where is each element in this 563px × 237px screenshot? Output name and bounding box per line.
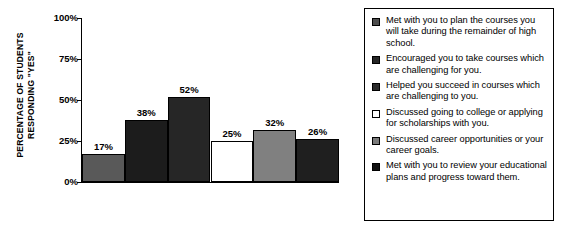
y-tick-label-100: 100% <box>34 13 78 23</box>
bar <box>296 139 339 182</box>
legend-swatch-icon <box>372 110 380 118</box>
bar <box>82 154 125 182</box>
bar-value-label: 25% <box>211 128 254 139</box>
bar <box>253 130 296 182</box>
y-axis-title-line-1: PERCENTAGE OF STUDENTS <box>15 15 26 175</box>
legend-swatch-icon <box>372 137 380 145</box>
bar-value-label: 52% <box>168 84 211 95</box>
legend-item: Met with you to plan the courses you wil… <box>372 15 550 49</box>
legend-item-label: Met with you to plan the courses you wil… <box>386 15 550 49</box>
legend-swatch-icon <box>372 163 380 171</box>
y-tick-label-25: 25% <box>34 136 78 146</box>
y-axis-tick-labels: 100% 75% 50% 25% 0% <box>30 0 78 237</box>
bar-value-label: 32% <box>253 117 296 128</box>
legend-item-label: Helped you succeed in courses which are … <box>386 80 550 103</box>
bar-value-label: 17% <box>82 141 125 152</box>
bar <box>168 97 211 182</box>
y-tick-label-50: 50% <box>34 95 78 105</box>
x-axis-line <box>81 182 339 183</box>
legend-swatch-icon <box>372 56 380 64</box>
bar <box>211 141 254 182</box>
bar <box>125 120 168 182</box>
y-tick-label-0: 0% <box>34 177 78 187</box>
legend: Met with you to plan the courses you wil… <box>364 8 554 221</box>
legend-item-label: Encouraged you to take courses which are… <box>386 53 550 76</box>
bar-value-label: 26% <box>296 126 339 137</box>
legend-item: Discussed career opportunities or your c… <box>372 134 550 157</box>
legend-item-label: Discussed career opportunities or your c… <box>386 134 550 157</box>
plot-area: 17%38%52%25%32%26% <box>82 18 339 182</box>
bar-chart: PERCENTAGE OF STUDENTS RESPONDING "YES" … <box>0 0 345 237</box>
legend-item-label: Met with you to review your educational … <box>386 160 550 183</box>
legend-item: Helped you succeed in courses which are … <box>372 80 550 103</box>
legend-swatch-icon <box>372 18 380 26</box>
legend-item: Met with you to review your educational … <box>372 160 550 183</box>
legend-item-label: Discussed going to college or applying f… <box>386 107 550 130</box>
chart-screenshot: PERCENTAGE OF STUDENTS RESPONDING "YES" … <box>0 0 563 237</box>
y-tick-label-75: 75% <box>34 54 78 64</box>
legend-swatch-icon <box>372 83 380 91</box>
legend-item: Encouraged you to take courses which are… <box>372 53 550 76</box>
legend-item: Discussed going to college or applying f… <box>372 107 550 130</box>
bar-value-label: 38% <box>125 107 168 118</box>
legend-list: Met with you to plan the courses you wil… <box>372 15 550 187</box>
